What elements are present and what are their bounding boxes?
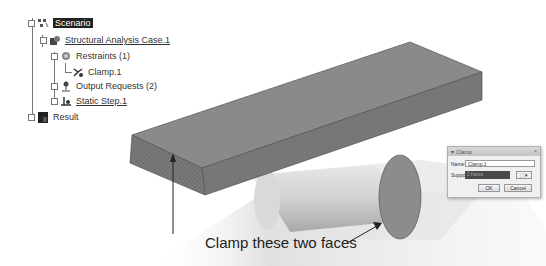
tree-item-scenario[interactable]: Scenario <box>28 17 93 29</box>
cancel-button[interactable]: Cancel <box>504 184 532 192</box>
tree-item-restraints[interactable]: Restraints (1) <box>51 50 130 62</box>
static-step-icon <box>60 96 72 107</box>
analysis-case-icon <box>49 35 61 46</box>
tree-item-label: Clamp.1 <box>88 67 122 77</box>
tree-item-label: Result <box>53 112 79 122</box>
cylinder-end-face[interactable] <box>379 155 421 239</box>
expand-toggle-icon[interactable] <box>51 83 58 90</box>
tree-line <box>65 72 72 73</box>
expand-toggle-icon[interactable] <box>28 114 35 121</box>
collapse-icon[interactable]: ▾ <box>451 149 454 155</box>
expand-toggle-icon[interactable] <box>51 98 58 105</box>
tree-item-clamp[interactable]: Clamp.1 <box>72 66 122 78</box>
dialog-title-bar[interactable]: ▾ Clamp × <box>448 147 540 156</box>
close-icon[interactable]: × <box>534 148 537 154</box>
expand-toggle-icon[interactable] <box>28 20 35 27</box>
tree-item-label: Output Requests (2) <box>76 81 157 91</box>
result-icon <box>37 112 49 123</box>
scenario-icon <box>37 18 49 29</box>
tree-item-output-requests[interactable]: Output Requests (2) <box>51 80 157 92</box>
tree-item-label: Structural Analysis Case.1 <box>65 35 170 45</box>
tree-line <box>32 18 33 116</box>
name-label: Name: <box>451 161 465 167</box>
expand-toggle-icon[interactable] <box>51 53 58 60</box>
clamp-dialog: ▾ Clamp × Name: Clamp.1 Support 2 Faces … <box>447 146 541 198</box>
support-options-button[interactable]: ⬚▾ <box>516 171 532 179</box>
tree-item-structural-analysis-case[interactable]: Structural Analysis Case.1 <box>40 34 170 46</box>
dialog-title: Clamp <box>456 149 472 155</box>
annotation-caption: Clamp these two faces <box>205 234 357 251</box>
tree-item-result[interactable]: Result <box>28 111 79 123</box>
tree-item-label: Static Step.1 <box>76 96 127 106</box>
support-label: Support <box>451 172 465 178</box>
output-requests-icon <box>60 81 72 92</box>
clamp-icon <box>72 67 84 78</box>
tree-item-label: Scenario <box>53 18 93 28</box>
tree-item-label: Restraints (1) <box>76 51 130 61</box>
expand-toggle-icon[interactable] <box>40 37 47 44</box>
restraints-icon <box>60 51 72 62</box>
ok-button[interactable]: OK <box>478 184 500 192</box>
support-selector[interactable]: 2 Faces <box>465 171 510 179</box>
name-input[interactable]: Clamp.1 <box>465 160 535 167</box>
tree-item-static-step[interactable]: Static Step.1 <box>51 95 127 107</box>
specification-tree: Scenario Structural Analysis Case.1 Rest… <box>0 0 200 130</box>
